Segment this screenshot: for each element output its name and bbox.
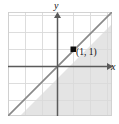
coordinate-plane-figure: y x (1, 1) <box>0 0 119 124</box>
y-axis-label: y <box>54 1 58 11</box>
point-coordinate-label: (1, 1) <box>76 48 97 58</box>
graph-canvas <box>0 0 119 124</box>
x-axis-label: x <box>111 62 115 72</box>
